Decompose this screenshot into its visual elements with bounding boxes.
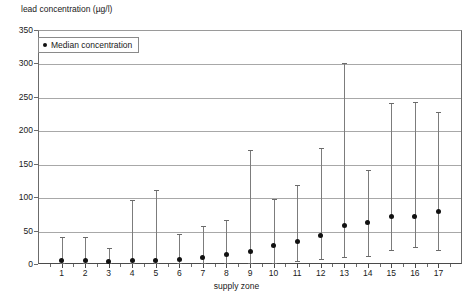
error-bar-upper-cap (272, 199, 277, 200)
error-bar-line (321, 148, 322, 258)
x-axis-minor-tick (285, 264, 286, 267)
x-axis-tick-label: 3 (98, 268, 120, 278)
x-axis-minor-tick (262, 264, 263, 267)
y-axis-tick-mark (34, 30, 38, 31)
x-axis-minor-tick (144, 264, 145, 267)
y-axis-tick-mark (34, 264, 38, 265)
error-bar-upper-cap (436, 112, 441, 113)
error-bar-upper-cap (342, 63, 347, 64)
error-bar-upper-cap (248, 150, 253, 151)
error-bar-lower-cap (224, 263, 229, 264)
x-axis-tick-label: 4 (121, 268, 143, 278)
x-axis-tick-label: 5 (145, 268, 167, 278)
error-bar-lower-cap (389, 250, 394, 251)
error-bar-upper-cap (413, 102, 418, 103)
x-axis-tick-label: 12 (310, 268, 332, 278)
error-bar-upper-cap (366, 170, 371, 171)
median-data-point (295, 239, 300, 244)
y-axis-tick-label: 350 (5, 25, 33, 35)
x-axis-minor-tick (403, 264, 404, 267)
error-bar-lower-cap (201, 263, 206, 264)
legend-label-median: Median concentration (51, 40, 132, 50)
x-axis-minor-tick (309, 264, 310, 267)
lead-concentration-chart: lead concentration (µg/l) 05010015020025… (0, 0, 473, 302)
error-bar-line (391, 103, 392, 250)
y-axis-tick-mark (34, 97, 38, 98)
median-data-point (106, 259, 111, 264)
x-axis-tick-label: 2 (74, 268, 96, 278)
gridline (39, 131, 461, 132)
x-axis-minor-tick (73, 264, 74, 267)
error-bar-line (250, 150, 251, 263)
y-axis-tick-label: 50 (5, 226, 33, 236)
y-axis-tick-label: 0 (5, 259, 33, 269)
y-axis-tick-mark (34, 164, 38, 165)
error-bar-upper-cap (201, 226, 206, 227)
y-axis-tick-label: 200 (5, 125, 33, 135)
x-axis-minor-tick (427, 264, 428, 267)
error-bar-lower-cap (366, 256, 371, 257)
x-axis-title: supply zone (0, 281, 473, 291)
x-axis-minor-tick (380, 264, 381, 267)
error-bar-upper-cap (83, 237, 88, 238)
x-axis-minor-tick (215, 264, 216, 267)
x-axis-tick-label: 1 (51, 268, 73, 278)
x-axis-tick-label: 10 (263, 268, 285, 278)
y-axis-tick-mark (34, 197, 38, 198)
x-axis-minor-tick (120, 264, 121, 267)
x-axis-tick-label: 17 (427, 268, 449, 278)
error-bar-line (297, 185, 298, 261)
chart-legend: Median concentration (38, 37, 139, 53)
x-axis-tick-label: 8 (215, 268, 237, 278)
error-bar-line (132, 200, 133, 264)
x-axis-minor-tick (332, 264, 333, 267)
median-data-point (389, 214, 394, 219)
x-axis-tick-label: 11 (286, 268, 308, 278)
gridline (39, 98, 461, 99)
error-bar-upper-cap (389, 103, 394, 104)
error-bar-lower-cap (248, 263, 253, 264)
error-bar-upper-cap (107, 248, 112, 249)
median-marker-icon (43, 43, 47, 47)
median-data-point (271, 243, 276, 248)
gridline (39, 64, 461, 65)
y-axis-tick-label: 150 (5, 159, 33, 169)
x-axis-tick-label: 16 (404, 268, 426, 278)
error-bar-lower-cap (413, 247, 418, 248)
x-axis-tick-label: 13 (333, 268, 355, 278)
error-bar-lower-cap (272, 263, 277, 264)
y-axis-tick-mark (34, 63, 38, 64)
error-bar-line (274, 199, 275, 263)
error-bar-lower-cap (60, 263, 65, 264)
y-axis-tick-label: 250 (5, 92, 33, 102)
error-bar-line (438, 112, 439, 250)
y-axis-tick-mark (34, 231, 38, 232)
y-axis-tick-label: 100 (5, 192, 33, 202)
median-data-point (248, 249, 253, 254)
error-bar-upper-cap (60, 237, 65, 238)
x-axis-tick-label: 7 (192, 268, 214, 278)
error-bar-line (415, 102, 416, 248)
x-axis-minor-tick (97, 264, 98, 267)
error-bar-lower-cap (130, 263, 135, 264)
error-bar-upper-cap (154, 190, 159, 191)
error-bar-lower-cap (83, 263, 88, 264)
error-bar-upper-cap (130, 200, 135, 201)
error-bar-lower-cap (177, 263, 182, 264)
error-bar-lower-cap (154, 263, 159, 264)
error-bar-line (368, 170, 369, 256)
x-axis-minor-tick (191, 264, 192, 267)
x-axis-tick-label: 14 (357, 268, 379, 278)
error-bar-line (156, 190, 157, 264)
x-axis-tick-label: 15 (380, 268, 402, 278)
y-axis-tick-label: 300 (5, 58, 33, 68)
error-bar-upper-cap (224, 220, 229, 221)
median-data-point (83, 258, 88, 263)
x-axis-minor-tick (238, 264, 239, 267)
x-axis-minor-tick (168, 264, 169, 267)
error-bar-lower-cap (436, 250, 441, 251)
x-axis-minor-tick (450, 264, 451, 267)
median-data-point (130, 258, 135, 263)
error-bar-lower-cap (295, 261, 300, 262)
error-bar-upper-cap (319, 148, 324, 149)
